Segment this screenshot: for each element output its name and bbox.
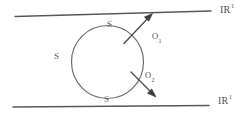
normal-vector-o2-label: O2 xyxy=(145,71,154,82)
upper-line-label-superscript: 1 xyxy=(231,3,234,9)
lower-line-label-text: IR xyxy=(218,95,228,106)
diagram-svg xyxy=(0,0,247,121)
region-label-s-top: S xyxy=(107,20,112,29)
upper-boundary-line xyxy=(15,11,211,17)
region-label-s-left: S xyxy=(54,52,59,61)
normal-vector-o1-label-subscript: 1 xyxy=(158,38,161,44)
lower-line-label-superscript: 1 xyxy=(229,94,232,100)
region-label-s-bottom: S xyxy=(104,95,109,104)
upper-line-label-ir: IR1 xyxy=(220,4,234,15)
lower-line-label-ir: IR1 xyxy=(218,95,232,106)
circle-boundary xyxy=(72,26,144,99)
upper-line-label-text: IR xyxy=(220,4,230,15)
figure-canvas: IR1 IR1 S S S O1 O2 xyxy=(0,0,247,121)
normal-vector-o1-label: O1 xyxy=(152,32,161,43)
normal-vector-o2-label-subscript: 2 xyxy=(151,77,154,83)
lower-boundary-line xyxy=(13,106,209,108)
normal-vector-o1 xyxy=(124,14,153,44)
